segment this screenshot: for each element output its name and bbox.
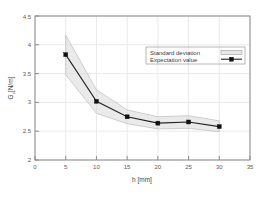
y-axis-title: Gc[N/m] <box>7 76 16 99</box>
x-axis-title: h [mm] <box>132 176 152 184</box>
x-tick-label: 20 <box>155 164 162 170</box>
x-tick-label: 35 <box>247 164 254 170</box>
chart-figure: 0 5 10 15 20 25 30 35 2 2.5 3 3.5 4 4.5 … <box>0 0 263 200</box>
x-tick-label: 30 <box>216 164 223 170</box>
y-tick-label: 4 <box>28 42 32 48</box>
x-tick-label: 0 <box>33 164 37 170</box>
data-point <box>94 99 98 103</box>
chart-svg: 0 5 10 15 20 25 30 35 2 2.5 3 3.5 4 4.5 … <box>0 0 263 200</box>
x-tick-label: 10 <box>93 164 100 170</box>
data-point <box>187 120 191 124</box>
x-tick-label: 15 <box>124 164 131 170</box>
data-point <box>125 115 129 119</box>
x-tick-label: 5 <box>64 164 68 170</box>
data-point <box>156 121 160 125</box>
data-point <box>217 125 221 129</box>
svg-text:Gc[N/m]: Gc[N/m] <box>7 76 16 99</box>
legend-band-swatch <box>221 50 242 54</box>
x-tick-labels: 0 5 10 15 20 25 30 35 <box>33 164 254 170</box>
y-tick-label: 2.5 <box>23 128 32 134</box>
legend-label-standard-deviation: Standard deviation <box>150 50 200 56</box>
x-tick-label: 25 <box>185 164 192 170</box>
legend-label-expectation-value: Expectation value <box>150 57 198 63</box>
y-tick-label: 3 <box>28 99 32 105</box>
y-tick-label: 2 <box>28 157 32 163</box>
y-tick-label: 4.5 <box>23 14 32 20</box>
y-tick-labels: 2 2.5 3 3.5 4 4.5 <box>23 14 32 164</box>
data-point <box>64 53 68 57</box>
y-tick-label: 3.5 <box>23 71 32 77</box>
y-axis-title-unit: [N/m] <box>7 76 15 92</box>
